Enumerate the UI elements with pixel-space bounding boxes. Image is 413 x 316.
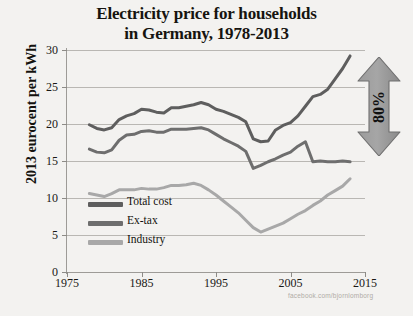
double-arrow-icon — [357, 57, 401, 156]
y-tick-label: 20 — [24, 117, 58, 132]
legend-swatch — [88, 221, 123, 226]
chart-title-line1: Electricity price for households — [96, 4, 316, 23]
x-tick-label: 1985 — [119, 276, 165, 291]
x-tick-mark — [142, 272, 143, 277]
legend-swatch — [88, 202, 123, 207]
chart-legend: Total costEx-taxIndustry — [88, 196, 208, 253]
legend-label: Industry — [127, 233, 165, 245]
y-tick-label: 5 — [24, 228, 58, 243]
legend-label: Total cost — [127, 195, 172, 207]
y-tick-label: 30 — [24, 43, 58, 58]
chart-title-line2: in Germany, 1978-2013 — [0, 24, 413, 44]
x-tick-mark — [291, 272, 292, 277]
x-tick-label: 1995 — [193, 276, 239, 291]
y-tick-label: 10 — [24, 191, 58, 206]
y-tick-label: 15 — [24, 154, 58, 169]
x-tick-label: 2015 — [342, 276, 388, 291]
chart-root: Electricity price for households in Germ… — [0, 0, 413, 316]
x-tick-mark — [365, 272, 366, 277]
legend-item: Ex-tax — [88, 215, 208, 234]
watermark: facebook.com/bjornlomborg — [288, 292, 373, 299]
legend-label: Ex-tax — [127, 214, 158, 226]
x-tick-mark — [67, 272, 68, 277]
series-line — [89, 56, 350, 142]
legend-item: Industry — [88, 234, 208, 253]
eighty-percent-arrow-annotation: 80% — [357, 57, 401, 156]
x-tick-label: 1975 — [44, 276, 90, 291]
x-tick-mark — [216, 272, 217, 277]
y-tick-label: 25 — [24, 80, 58, 95]
legend-item: Total cost — [88, 196, 208, 215]
x-tick-label: 2005 — [268, 276, 314, 291]
legend-swatch — [88, 240, 123, 245]
series-line — [89, 128, 350, 169]
chart-title: Electricity price for households in Germ… — [0, 4, 413, 44]
